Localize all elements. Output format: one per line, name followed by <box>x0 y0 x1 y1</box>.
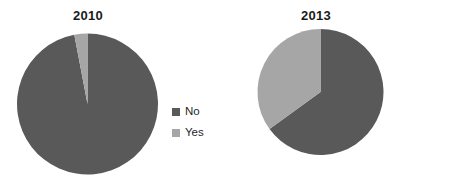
legend-swatch-no-icon <box>172 108 180 116</box>
legend-label-yes: Yes <box>185 126 204 139</box>
pie-chart-2010 <box>31 32 144 176</box>
legend-item-no-2010[interactable]: No <box>172 103 204 120</box>
legend-2010: No Yes <box>172 103 204 145</box>
chart-title-2013: 2013 <box>204 8 428 24</box>
legend-item-yes-2010[interactable]: Yes <box>172 124 204 141</box>
chart-title-2010: 2010 <box>0 8 200 24</box>
chart-panel-2010: 2010 No Yes <box>0 0 224 193</box>
pie-slice-no-2010[interactable] <box>17 34 158 175</box>
legend-swatch-yes-icon <box>172 129 180 137</box>
pie-chart-2013 <box>262 30 379 176</box>
pie-svg-2013 <box>262 30 379 176</box>
legend-label-no: No <box>185 105 200 118</box>
pie-svg-2010 <box>31 32 144 176</box>
chart-panel-2013: 2013 No Yes <box>225 0 449 193</box>
